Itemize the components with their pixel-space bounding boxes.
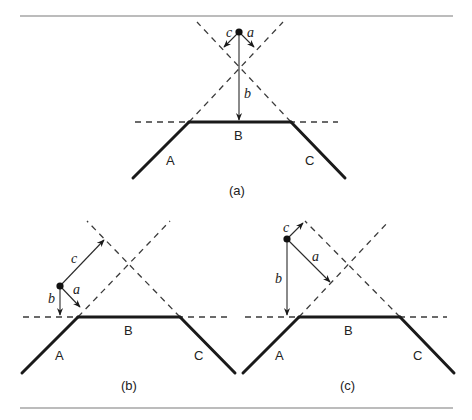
panel-c-vector-c-label: c [283, 220, 290, 235]
panel-c-point [283, 235, 290, 242]
panel-a-segment-c-label: C [305, 153, 314, 168]
panel-c-segment-c [400, 317, 454, 373]
panel-a-caption: (a) [229, 183, 245, 198]
panel-c-caption: (c) [340, 378, 355, 393]
panel-c: c a b B A C (c) [243, 220, 454, 393]
panel-b-segment-a-extension [78, 221, 170, 317]
panel-c-vector-b-label: b [275, 271, 282, 286]
panel-a-segment-b-label: B [234, 128, 243, 143]
panel-c-vector-a-label: a [312, 249, 319, 264]
panel-a-vector-a-label: a [247, 25, 254, 40]
panel-a-point [235, 28, 242, 35]
panel-c-vector-a [287, 239, 330, 282]
panel-a-segment-c [291, 122, 345, 178]
panel-b-segment-c [180, 317, 235, 373]
panel-b-vector-b-label: b [48, 291, 55, 306]
panel-b-segment-b-label: B [124, 323, 133, 338]
panel-a-segment-a-extension [189, 22, 283, 122]
panel-a: c a b B A C (a) [133, 22, 345, 198]
panel-c-segment-b-label: B [344, 323, 353, 338]
panel-c-segment-a-label: A [275, 348, 284, 363]
panel-b-segment-a-label: A [55, 348, 64, 363]
distance-diagram-figure: c a b B A C (a) c a b B A C (b) [0, 0, 472, 420]
panel-b-vector-c-label: c [71, 251, 78, 266]
panel-b: c a b B A C (b) [22, 221, 235, 393]
panel-a-segment-a-label: A [166, 153, 175, 168]
panel-c-segment-a [243, 317, 299, 373]
panel-a-vector-b-label: b [244, 86, 251, 101]
panel-b-segment-c-extension [87, 221, 180, 317]
panel-c-segment-a-extension [299, 221, 389, 317]
panel-c-segment-c-extension [305, 221, 400, 317]
panel-b-point [56, 282, 63, 289]
panel-a-segment-a [133, 122, 189, 178]
panel-b-vector-c [60, 240, 104, 286]
panel-b-vector-a-label: a [73, 282, 80, 297]
panel-b-segment-a [22, 317, 78, 373]
panel-b-segment-c-label: C [194, 348, 203, 363]
panel-c-segment-c-label: C [413, 348, 422, 363]
panel-b-caption: (b) [121, 378, 137, 393]
panel-a-vector-c-label: c [226, 25, 233, 40]
